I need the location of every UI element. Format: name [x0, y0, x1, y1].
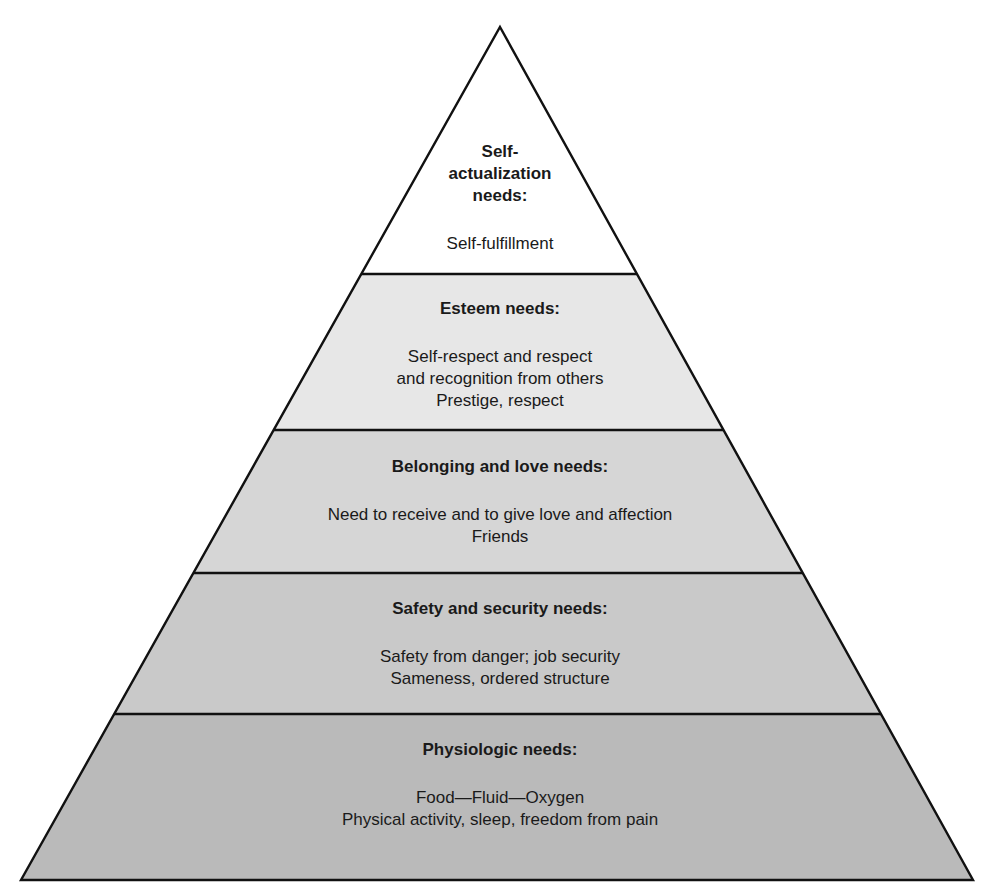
- tier-description: Safety from danger; job security: [380, 647, 621, 666]
- tier-description: Self-respect and respect: [408, 347, 593, 366]
- tier-title: Self-: [482, 142, 519, 161]
- tier-description: and recognition from others: [397, 369, 604, 388]
- tier-description: Need to receive and to give love and aff…: [328, 505, 673, 524]
- tier-description: Friends: [472, 527, 529, 546]
- tier-title: Esteem needs:: [440, 299, 560, 318]
- tier-safety-security: [114, 573, 881, 714]
- tier-title: Physiologic needs:: [423, 740, 578, 759]
- tier-description: Food—Fluid—Oxygen: [416, 788, 584, 807]
- tier-description: Prestige, respect: [436, 391, 564, 410]
- tier-description: Physical activity, sleep, freedom from p…: [342, 810, 658, 829]
- tier-title: Safety and security needs:: [392, 599, 607, 618]
- tier-belonging-love: [193, 430, 802, 573]
- tier-description: Self-fulfillment: [447, 234, 554, 253]
- tier-title: needs:: [473, 186, 528, 205]
- tier-title: Belonging and love needs:: [392, 457, 608, 476]
- tier-title: actualization: [449, 164, 552, 183]
- pyramid-diagram: Self-actualizationneeds:Self-fulfillment…: [0, 0, 994, 893]
- tier-description: Sameness, ordered structure: [390, 669, 609, 688]
